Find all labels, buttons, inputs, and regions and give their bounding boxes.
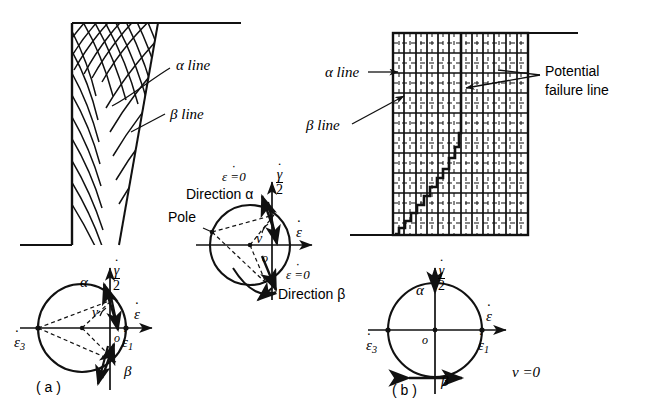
caption-a: ( a )	[36, 380, 61, 394]
epsilon3-point-b	[385, 327, 390, 332]
axis-label-epsilon-a: ·ε	[134, 306, 140, 322]
axis-label-epsilon-b: ·ε	[486, 308, 492, 324]
label-origin-b: o	[422, 334, 428, 346]
axis-label-gamma-center: ·γ 2	[276, 168, 283, 198]
label-alpha-line-a: α line	[176, 57, 210, 73]
label-origin-a: o	[114, 332, 120, 344]
label-epsilon3-b: ·ε3	[366, 337, 377, 355]
center-point-b	[433, 328, 438, 333]
label-direction-beta: Direction β	[278, 287, 345, 301]
label-alpha-line-b: α line	[325, 64, 359, 80]
label-alpha-b: α	[416, 283, 424, 298]
label-beta-a: β	[124, 364, 131, 379]
label-epsilon1-b: ·ε1	[478, 337, 489, 355]
label-nu-equals-zero: ν =0	[512, 364, 540, 380]
mohr-circle-b	[368, 268, 506, 394]
label-potential-failure-line: Potential failure line	[545, 62, 609, 100]
label-origin-center: o	[262, 252, 268, 264]
panel-b-grid	[350, 33, 578, 235]
label-pole: Pole	[168, 210, 196, 224]
label-epsdot-zero-top: ·ε =0	[222, 170, 246, 183]
axis-label-gamma-a: ·γ 2	[113, 264, 120, 294]
label-beta-line-a: β line	[170, 106, 204, 122]
label-nu-a: ν	[92, 306, 98, 320]
label-alpha-a: α	[80, 275, 88, 290]
axis-label-gamma-b: ·γ 2	[438, 264, 445, 294]
caption-b: ( b )	[392, 383, 417, 397]
label-nu-center: ν	[256, 232, 262, 246]
label-beta-b: β	[441, 374, 448, 389]
label-direction-alpha: Direction α	[186, 187, 253, 201]
label-epsilon1-a: ·ε1	[122, 334, 133, 352]
axis-label-epsilon-center: ·ε	[296, 224, 302, 240]
label-epsilon3-a: ·ε3	[14, 334, 25, 352]
label-beta-line-b: β line	[306, 117, 340, 133]
label-epsdot-zero-bottom: ·ε =0	[286, 268, 310, 281]
panel-a-wedge	[20, 6, 241, 272]
leader-pole	[203, 228, 212, 232]
